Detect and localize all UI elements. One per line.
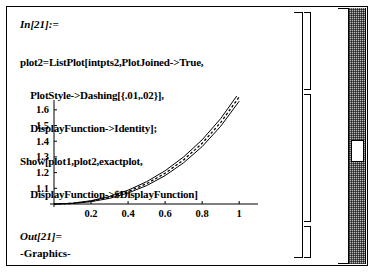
x-tick-label: 1 <box>237 208 242 219</box>
plot-curve-plot2 <box>54 97 239 204</box>
bracket-spine <box>302 12 303 258</box>
bracket-top-cap <box>304 94 311 95</box>
bracket-top-cap <box>294 12 303 13</box>
vertical-scrollbar[interactable] <box>348 8 366 264</box>
bracket-bottom-cap <box>294 257 303 258</box>
graphic-cell-bracket[interactable] <box>304 94 311 222</box>
output-text: -Graphics- <box>20 247 71 259</box>
input-cell-bracket[interactable] <box>304 12 311 90</box>
bracket-top-cap <box>304 226 311 227</box>
y-tick-label: 1.6 <box>36 104 49 115</box>
y-tick-label: 1.4 <box>36 136 50 147</box>
bracket-bottom-cap <box>304 221 311 222</box>
x-tick-label: 0.6 <box>159 208 172 219</box>
list-plot-graphic: 0.20.40.60.811.11.21.31.41.51.6 <box>22 96 262 221</box>
input-prompt-label: In[21]:= <box>20 18 59 30</box>
graphic-output-cell[interactable]: 0.20.40.60.811.11.21.31.41.51.6 <box>22 96 262 221</box>
notebook-page[interactable]: In[21]:= plot2=ListPlot[intpts2,PlotJoin… <box>8 8 338 264</box>
output-cell-bracket[interactable] <box>304 226 311 258</box>
group-cell-bracket[interactable] <box>294 12 303 258</box>
bracket-top-cap <box>304 12 311 13</box>
y-tick-label: 1.1 <box>36 183 49 194</box>
y-tick-label: 1.3 <box>36 151 49 162</box>
bracket-bottom-cap <box>304 89 311 90</box>
x-tick-label: 0.4 <box>122 208 136 219</box>
notebook-window: In[21]:= plot2=ListPlot[intpts2,PlotJoin… <box>0 0 374 272</box>
x-tick-label: 0.8 <box>196 208 209 219</box>
x-tick-label: 0.2 <box>84 208 97 219</box>
plot-curve-exactplot <box>54 96 239 204</box>
code-line-1: plot2=ListPlot[intpts2,PlotJoined->True, <box>20 57 203 68</box>
plot-curve-plot1 <box>54 101 239 204</box>
bracket-spine <box>310 94 311 222</box>
bracket-spine <box>310 12 311 90</box>
y-tick-label: 1.2 <box>36 167 49 178</box>
bracket-spine <box>310 226 311 258</box>
scroll-thumb[interactable] <box>351 140 364 162</box>
output-prompt-label: Out[21]= <box>20 230 62 242</box>
y-tick-label: 1.5 <box>36 120 49 131</box>
bracket-bottom-cap <box>304 257 311 258</box>
